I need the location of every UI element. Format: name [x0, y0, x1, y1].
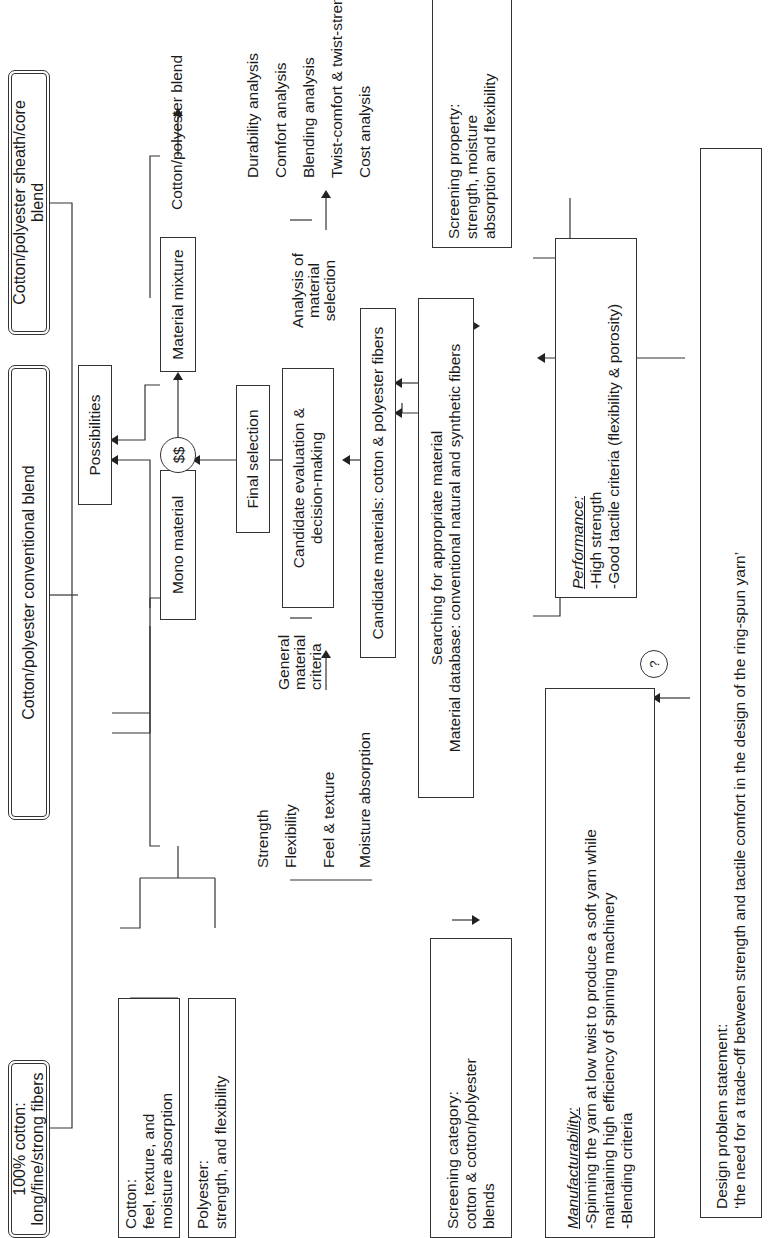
problem-statement-box: Design problem statement: ‘the need for …	[700, 148, 762, 1218]
final-selection-box: Final selection	[236, 385, 270, 533]
candidate-evaluation-line: Candidate evaluation &	[290, 408, 308, 568]
search-line: Material database: conventional natural …	[446, 344, 464, 752]
manufacturability-box: Manufacturability: -Spinning the yarn at…	[545, 688, 655, 1238]
search-line: Searching for appropriate material	[428, 431, 446, 665]
cotton-line: moisture absorption	[158, 1007, 176, 1229]
mono-material-box: Mono material	[160, 470, 196, 620]
possibilities-label: Possibilities	[86, 395, 104, 476]
screening-property-line: Screening property:	[445, 0, 463, 239]
screening-category-line: Screening category:	[444, 947, 462, 1229]
candidate-materials-box: Candidate materials: cotton & polyester …	[360, 308, 396, 658]
analysis-item-durability: Durability analysis	[244, 53, 262, 178]
manufacturability-title: Manufacturability:	[564, 697, 582, 1229]
outcome-100-cotton: 100% cotton: long/fine/strong fibers	[8, 1060, 50, 1238]
problem-statement-line: Design problem statement:	[713, 157, 731, 1209]
outcome-label: 100% cotton: long/fine/strong fibers	[11, 1072, 47, 1226]
analysis-item-blending: Blending analysis	[300, 57, 318, 178]
manufacturability-line: -Blending criteria	[618, 697, 636, 1229]
decision-node: ?	[640, 650, 668, 678]
performance-line: -High strength	[587, 247, 605, 589]
screening-category-line: cotton & cotton/polyester	[462, 947, 480, 1229]
possibilities-box: Possibilities	[78, 365, 112, 505]
screening-property-line: absorption and flexibility	[481, 0, 499, 239]
analysis-label: Analysis of material selection	[290, 253, 338, 328]
mono-material-label: Mono material	[169, 496, 187, 594]
outcome-label: Cotton/polyester sheath/core blend	[11, 82, 47, 323]
general-criteria-line: criteria	[308, 635, 324, 690]
analysis-item-cost: Cost analysis	[356, 86, 374, 178]
criteria-item-strength: Strength	[254, 809, 272, 868]
material-search-box: Searching for appropriate material Mater…	[418, 298, 474, 798]
performance-line: -Good tactile criteria (flexibility & po…	[605, 247, 623, 589]
final-selection-label: Final selection	[244, 409, 262, 508]
general-criteria-line: General	[276, 635, 292, 690]
screening-property-box: Screening property: strength, moisture a…	[432, 0, 512, 248]
cotton-line: feel, texture, and	[140, 1007, 158, 1229]
general-criteria-label: General material criteria	[276, 635, 324, 690]
candidate-evaluation-line: decision-making	[308, 432, 326, 544]
design-flowchart: 100% cotton: long/fine/strong fibers Cot…	[0, 0, 777, 1238]
problem-statement-line: ‘the need for a trade-off between streng…	[731, 157, 749, 1209]
analysis-line: selection	[322, 253, 338, 328]
screening-category-box: Screening category: cotton & cotton/poly…	[430, 938, 512, 1238]
analysis-line: Analysis of	[290, 253, 306, 328]
analysis-item-twist: Twist-comfort & twist-strength	[328, 0, 346, 178]
criteria-item-flexibility: Flexibility	[282, 804, 300, 868]
criteria-item-moisture-absorption: Moisture absorption	[356, 732, 374, 868]
polyester-title: Polyester:	[194, 1007, 212, 1229]
decision-node-label: ?	[647, 660, 662, 667]
cotton-properties-box: Cotton: feel, texture, and moisture abso…	[118, 998, 180, 1238]
candidate-materials-label: Candidate materials: cotton & polyester …	[369, 327, 387, 640]
analysis-item-comfort: Comfort analysis	[272, 63, 290, 178]
outcome-conventional-blend: Cotton/polyester conventional blend	[8, 365, 50, 820]
cotton-title: Cotton:	[122, 1007, 140, 1229]
cost-node: $$	[160, 437, 196, 473]
cost-node-label: $$	[170, 447, 187, 464]
material-mixture-box: Material mixture	[160, 237, 196, 372]
screening-property-line: strength, moisture	[463, 0, 481, 239]
performance-title: Performance:	[569, 247, 587, 589]
candidate-evaluation-box: Candidate evaluation & decision-making	[282, 368, 334, 608]
performance-box: Performance: -High strength -Good tactil…	[555, 238, 637, 598]
manufacturability-line: -Spinning the yarn at low twist to produ…	[582, 697, 600, 1229]
analysis-line: material	[306, 253, 322, 328]
screening-category-line: blends	[480, 947, 498, 1229]
criteria-item-feel-texture: Feel & texture	[320, 772, 338, 869]
polyester-properties-box: Polyester: strength, and flexibility	[188, 998, 236, 1238]
mixture-result-label: Cotton/polyester blend	[168, 55, 186, 210]
polyester-line: strength, and flexibility	[212, 1007, 230, 1229]
material-mixture-label: Material mixture	[169, 249, 187, 359]
manufacturability-line: maintaining high efficiency of spinning …	[600, 697, 618, 1229]
outcome-sheath-core-blend: Cotton/polyester sheath/core blend	[8, 70, 50, 335]
general-criteria-line: material	[292, 635, 308, 690]
outcome-label: Cotton/polyester conventional blend	[20, 465, 38, 719]
